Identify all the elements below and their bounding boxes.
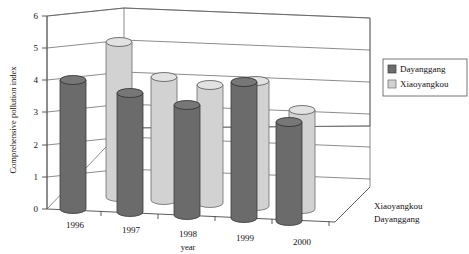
dark-swatch-icon — [388, 65, 396, 73]
bar-dayanggang-1999 — [231, 78, 257, 223]
x-tick-label-1999: 1999 — [236, 233, 255, 243]
y-tick-label-1: 1 — [34, 172, 39, 182]
y-tick-label-6: 6 — [34, 11, 39, 21]
y-axis-title: Comprehensive pollution index — [8, 66, 18, 174]
x-tick-label-1998: 1998 — [179, 229, 198, 239]
y-tick-label-0: 0 — [34, 204, 39, 214]
depth-axis-label-dayanggang: Dayanggang — [374, 214, 420, 224]
y-tick-label-2: 2 — [34, 140, 39, 150]
depth-axis-label-xiaoyangkou: Xiaoyangkou — [374, 201, 423, 211]
bar-dayanggang-2000 — [276, 118, 302, 226]
x-axis-title: year — [181, 242, 196, 252]
x-tick-label-1996: 1996 — [66, 220, 85, 230]
chart-container: 6 5 4 3 2 1 0 Comprehensive pollution in… — [0, 0, 469, 254]
y-tick-label-4: 4 — [34, 75, 39, 85]
y-tick-label-3: 3 — [34, 107, 39, 117]
y-tick-label-5: 5 — [34, 43, 39, 53]
x-tick-label-2000: 2000 — [293, 237, 312, 247]
legend-item-label-dayanggang: Dayanggang — [400, 64, 446, 74]
bar-chart-3d: 6 5 4 3 2 1 0 Comprehensive pollution in… — [0, 0, 469, 254]
legend-item-label-xiaoyangkou: Xiaoyangkou — [400, 79, 449, 89]
bar-dayanggang-1997 — [117, 89, 143, 217]
x-tick-label-1997: 1997 — [122, 225, 141, 235]
bar-xiaoyangkou-1998 — [151, 73, 177, 205]
light-swatch-icon — [388, 80, 396, 88]
bar-xiaoyangkou-1999 — [197, 81, 223, 208]
chart-legend[interactable]: Dayanggang Xiaoyangkou — [383, 59, 467, 96]
bar-dayanggang-1998 — [174, 101, 200, 220]
bar-dayanggang-1996 — [60, 76, 86, 214]
y-axis: 6 5 4 3 2 1 0 Comprehensive pollution in… — [8, 11, 47, 214]
